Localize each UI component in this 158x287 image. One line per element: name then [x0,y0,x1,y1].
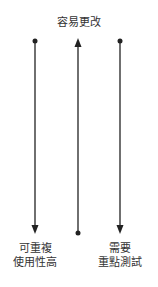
right-label-line2: 重點測試 [90,256,150,270]
right-label: 需要 重點測試 [90,242,150,270]
right-label-line1: 需要 [90,242,150,256]
top-label: 容易更改 [0,16,158,30]
right-arrow [117,39,124,235]
left-label-line1: 可重複 [5,242,65,256]
middle-arrow [75,38,82,236]
left-arrow [32,39,39,235]
left-label-line2: 使用性高 [5,256,65,270]
left-label: 可重複 使用性高 [5,242,65,270]
